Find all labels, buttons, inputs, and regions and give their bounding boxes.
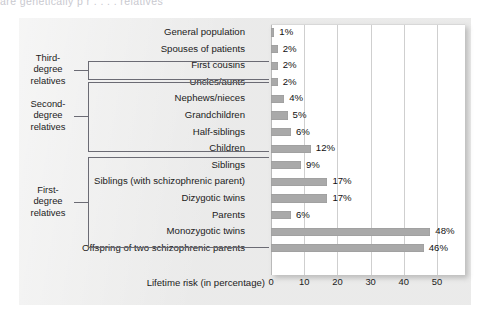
bar-label-spouses-of-patients: Spouses of patients [161, 41, 245, 58]
bar-track-half-siblings: 6% [271, 124, 471, 141]
schizophrenia-risk-chart-figure: are genetically p r . . . . relatives Ge… [0, 0, 491, 320]
bar-value-monozygotic-twins: 48% [435, 223, 454, 240]
bracket-first-degree [88, 157, 269, 248]
bar-monozygotic-twins [271, 228, 430, 236]
bar-value-siblings-with-schizophrenic-parent: 17% [332, 173, 351, 190]
bar-track-first-cousins: 2% [271, 57, 471, 74]
bar-value-first-cousins: 2% [283, 57, 297, 74]
bar-nephews-nieces [271, 95, 284, 103]
bar-value-half-siblings: 6% [296, 124, 310, 141]
bar-track-spouses-of-patients: 2% [271, 41, 471, 58]
bar-siblings-with-schizophrenic-parent [271, 178, 327, 186]
bar-grandchildren [271, 111, 288, 119]
bar-value-siblings: 9% [306, 157, 320, 174]
bar-track-grandchildren: 5% [271, 107, 471, 124]
group-label-second-degree: Second- degree relatives [22, 98, 74, 132]
bar-track-nephews-nieces: 4% [271, 90, 471, 107]
bar-offspring-of-two-schizophrenic-parents [271, 244, 424, 252]
bar-track-siblings: 9% [271, 157, 471, 174]
bar-uncles-aunts [271, 78, 278, 86]
bar-row-general-population: General population1% [0, 24, 471, 41]
x-axis-ticks: 01020304050 [271, 276, 471, 292]
bar-track-uncles-aunts: 2% [271, 74, 471, 91]
bar-value-children: 12% [316, 140, 335, 157]
x-tick-40: 40 [399, 276, 409, 287]
bar-value-spouses-of-patients: 2% [283, 41, 297, 58]
bar-value-grandchildren: 5% [293, 107, 307, 124]
bracket-stem-first-degree [74, 202, 88, 203]
bar-general-population [271, 28, 274, 36]
group-label-first-degree: First- degree relatives [22, 184, 74, 218]
bar-half-siblings [271, 128, 291, 136]
bar-track-parents: 6% [271, 207, 471, 224]
bar-track-offspring-of-two-schizophrenic-parents: 46% [271, 240, 471, 257]
bar-track-dizygotic-twins: 17% [271, 190, 471, 207]
x-tick-20: 20 [332, 276, 342, 287]
bar-children [271, 145, 311, 153]
group-label-third-degree: Third- degree relatives [22, 52, 74, 86]
x-tick-0: 0 [268, 276, 273, 287]
bar-track-general-population: 1% [271, 24, 471, 41]
bracket-stem-third-degree [74, 70, 88, 71]
bar-track-children: 12% [271, 140, 471, 157]
x-axis-title: Lifetime risk (in percentage) [147, 276, 265, 290]
bar-first-cousins [271, 62, 278, 70]
bar-value-general-population: 1% [279, 24, 293, 41]
bar-spouses-of-patients [271, 45, 278, 53]
bar-parents [271, 211, 291, 219]
bar-siblings [271, 161, 301, 169]
bar-value-parents: 6% [296, 207, 310, 224]
bar-label-general-population: General population [164, 24, 245, 41]
bar-value-dizygotic-twins: 17% [332, 190, 351, 207]
bar-dizygotic-twins [271, 194, 327, 202]
bar-value-uncles-aunts: 2% [283, 74, 297, 91]
bracket-third-degree [88, 61, 269, 80]
bar-value-offspring-of-two-schizophrenic-parents: 46% [429, 240, 448, 257]
x-tick-10: 10 [299, 276, 309, 287]
bracket-stem-second-degree [74, 116, 88, 117]
bar-track-monozygotic-twins: 48% [271, 223, 471, 240]
cropped-caption-label: are genetically p r . . . . relatives [0, 0, 163, 7]
x-tick-50: 50 [432, 276, 442, 287]
cropped-caption-text: are genetically p r . . . . relatives [0, 0, 491, 13]
bracket-second-degree [88, 82, 269, 152]
x-tick-30: 30 [365, 276, 375, 287]
bar-track-siblings-with-schizophrenic-parent: 17% [271, 173, 471, 190]
bar-value-nephews-nieces: 4% [289, 90, 303, 107]
